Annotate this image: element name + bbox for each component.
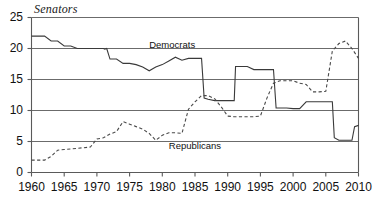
series-label-republicans: Republicans bbox=[169, 140, 221, 151]
chart-container: Senators 0510152025 19601965197019751980… bbox=[0, 0, 385, 208]
x-tick-label-2010: 2010 bbox=[339, 180, 379, 194]
y-tick-label-5: 5 bbox=[1, 134, 23, 148]
y-tick-label-0: 0 bbox=[1, 165, 23, 179]
y-tick-label-10: 10 bbox=[1, 103, 23, 117]
y-tick-label-20: 20 bbox=[1, 41, 23, 55]
series-label-democrats: Democrats bbox=[149, 39, 195, 50]
y-tick-label-15: 15 bbox=[1, 72, 23, 86]
y-tick-label-25: 25 bbox=[1, 10, 23, 24]
gridlines bbox=[32, 18, 359, 142]
chart-plot-area bbox=[0, 0, 385, 208]
